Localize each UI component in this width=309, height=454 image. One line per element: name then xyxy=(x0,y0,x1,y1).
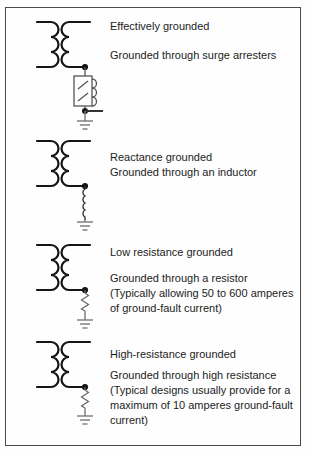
ground-symbol xyxy=(77,111,93,129)
section-4-description-line: Grounded through high resistance xyxy=(110,368,293,383)
section-3-description: Grounded through a resistor (Typically a… xyxy=(110,271,293,316)
transformer-symbol xyxy=(37,245,90,293)
section-4-description-line: current) xyxy=(110,413,293,428)
ground-symbol xyxy=(77,313,93,328)
section-3-description-line: Grounded through a resistor xyxy=(110,271,293,286)
surge-arrester-symbol xyxy=(74,67,97,111)
section-4-description-line: maximum of 10 amperes ground-fault xyxy=(110,398,293,413)
ground-symbol xyxy=(77,220,93,230)
section-2-title: Reactance grounded xyxy=(110,150,212,165)
figure-canvas: Effectively grounded Grounded through su… xyxy=(0,0,309,454)
section-1-description-line: Grounded through surge arresters xyxy=(110,48,276,63)
inductor-symbol xyxy=(83,186,85,220)
section-4-title: High-resistance grounded xyxy=(110,347,236,362)
section-3-description-line: (Typically allowing 50 to 600 amperes xyxy=(110,286,293,301)
transformer-symbol xyxy=(37,342,90,390)
transformer-symbol xyxy=(37,141,90,189)
section-4-description-line: (Typical designs usually provide for a xyxy=(110,383,293,398)
section-3-title: Low resistance grounded xyxy=(110,245,233,260)
ground-symbol xyxy=(77,410,93,424)
resistor-symbol xyxy=(82,290,89,313)
section-4-description: Grounded through high resistance (Typica… xyxy=(110,368,293,428)
section-3-description-line: of ground-fault current) xyxy=(110,301,293,316)
section-1-title: Effectively grounded xyxy=(110,19,209,34)
resistor-symbol xyxy=(82,387,89,410)
transformer-symbol xyxy=(37,22,90,70)
section-2-description-line: Grounded through an inductor xyxy=(110,165,257,180)
